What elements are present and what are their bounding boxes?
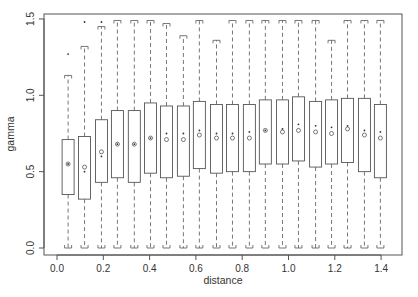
iqr-box <box>95 120 107 183</box>
median-marker <box>166 133 168 135</box>
box <box>211 40 223 248</box>
y-tick-label: 0.5 <box>25 164 36 178</box>
box <box>326 40 338 248</box>
iqr-box <box>177 106 189 176</box>
iqr-box <box>226 104 238 171</box>
iqr-box <box>193 101 205 168</box>
box <box>160 24 172 248</box>
median-marker <box>380 131 382 133</box>
lower-whisker-cap <box>262 245 269 248</box>
lower-whisker-cap <box>328 245 335 248</box>
median-marker <box>150 137 152 139</box>
box <box>310 20 322 248</box>
x-axis-title: distance <box>203 274 242 286</box>
y-axis: 0.00.51.01.5 <box>25 12 44 255</box>
box <box>62 53 74 248</box>
box <box>276 20 288 248</box>
outlier-point <box>67 53 69 55</box>
outlier-point <box>84 21 86 23</box>
outlier-point <box>101 21 103 23</box>
iqr-box <box>374 104 386 177</box>
box <box>226 20 238 248</box>
median-marker <box>331 126 333 128</box>
upper-whisker-cap <box>229 20 236 23</box>
lower-whisker-cap <box>377 245 384 248</box>
iqr-box <box>326 100 338 164</box>
x-tick-label: 0.4 <box>143 263 157 274</box>
median-marker <box>347 125 349 127</box>
iqr-box <box>259 100 271 164</box>
iqr-box <box>342 98 354 162</box>
iqr-box <box>292 97 304 161</box>
box <box>145 20 157 248</box>
iqr-box <box>79 137 91 200</box>
median-marker <box>133 143 135 145</box>
median-marker <box>216 133 218 135</box>
x-tick-label: 0.2 <box>96 263 110 274</box>
iqr-box <box>358 98 370 171</box>
median-marker <box>248 131 250 133</box>
y-tick-label: 0.0 <box>25 241 36 255</box>
median-marker <box>101 155 103 157</box>
box <box>177 36 189 248</box>
upper-whisker-cap <box>377 20 384 23</box>
median-marker <box>298 123 300 125</box>
upper-whisker-cap <box>246 20 253 23</box>
x-tick-label: 1.2 <box>328 263 342 274</box>
x-tick-label: 0.6 <box>189 263 203 274</box>
box <box>111 20 123 248</box>
box <box>358 20 370 248</box>
iqr-box <box>62 140 74 195</box>
median-marker <box>232 133 234 135</box>
lower-whisker-cap <box>81 245 88 248</box>
box <box>95 21 107 248</box>
iqr-box <box>276 100 288 164</box>
median-marker <box>84 171 86 173</box>
box <box>193 20 205 248</box>
y-tick-label: 1.0 <box>25 88 36 102</box>
median-marker <box>364 130 366 132</box>
x-tick-label: 1.0 <box>282 263 296 274</box>
lower-whisker-cap <box>279 245 286 248</box>
median-marker <box>182 133 184 135</box>
box <box>259 20 271 248</box>
upper-whisker-cap <box>180 36 187 39</box>
box <box>243 20 255 248</box>
x-tick-label: 0.8 <box>235 263 249 274</box>
box <box>292 20 304 248</box>
median-marker <box>117 143 119 145</box>
iqr-box <box>243 104 255 171</box>
x-axis: 0.00.20.40.60.81.01.21.4 <box>50 255 388 274</box>
box <box>342 20 354 248</box>
box <box>79 21 91 248</box>
lower-whisker-cap <box>163 245 170 248</box>
y-axis-title: gamma <box>4 116 16 151</box>
x-tick-label: 0.0 <box>50 263 64 274</box>
boxplot-chart: 0.00.20.40.60.81.01.21.4 0.00.51.01.5 di… <box>0 0 418 297</box>
lower-whisker-cap <box>114 245 121 248</box>
x-tick-label: 1.4 <box>374 263 388 274</box>
median-marker <box>198 130 200 132</box>
box-series <box>62 20 386 248</box>
box <box>374 20 386 248</box>
median-marker <box>67 163 69 165</box>
median-marker <box>264 130 266 132</box>
y-tick-label: 1.5 <box>25 12 36 26</box>
median-marker <box>315 125 317 127</box>
box <box>128 20 140 248</box>
iqr-box <box>211 104 223 173</box>
median-marker <box>282 128 284 130</box>
